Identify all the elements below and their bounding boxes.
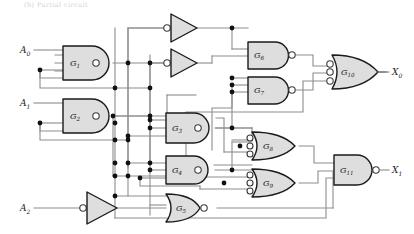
inverter-top2[interactable]: [164, 49, 197, 77]
gate-g8[interactable]: G8: [247, 132, 295, 160]
gate-g11[interactable]: G11: [334, 155, 389, 185]
gate-g10[interactable]: G10: [327, 55, 389, 89]
output-label-x1: X1: [391, 165, 402, 177]
gate-g3[interactable]: G3: [166, 113, 209, 143]
gate-g6[interactable]: G6: [248, 42, 295, 69]
input-label-a0: A0: [19, 45, 31, 57]
gate-g4[interactable]: G4: [166, 156, 208, 184]
gate-g1[interactable]: G1: [55, 46, 109, 80]
gate-g9[interactable]: G9: [247, 169, 295, 197]
inverter-a2[interactable]: [80, 192, 117, 224]
gate-g2[interactable]: G2: [63, 99, 109, 133]
input-label-a1: A1: [19, 98, 30, 110]
inverter-top1[interactable]: [164, 14, 197, 42]
gate-g7[interactable]: G7: [248, 77, 295, 104]
circuit-canvas: G1 G2 G3 G4: [0, 0, 414, 234]
circuit-diagram-figure: (b) Partial circuit: [0, 0, 414, 234]
output-label-x0: X0: [391, 67, 402, 79]
input-label-a2: A2: [19, 203, 31, 215]
